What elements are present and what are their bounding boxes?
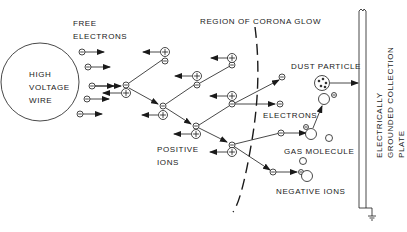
corona-region-label: REGION OF CORONA GLOW [200,15,321,28]
dust-speck [325,82,327,84]
wire-label: HIGH VOLTAGE WIRE [29,68,70,107]
electron-path-arrow [235,147,270,170]
dust-speck [320,85,322,87]
electrons-label: ELECTRONS [263,109,317,122]
free-electrons-label-line1: FREE [73,17,127,30]
dust-speck [324,86,326,88]
collection-plate-label-line3: PLATE [396,47,407,158]
path-line [199,106,229,125]
free-electrons-label: FREE ELECTRONS [73,17,127,43]
positive-ions-label-line1: POSITIVE [157,143,199,156]
path-line [166,85,194,104]
collection-plate-outline [359,11,366,208]
gas-molecule-icon [300,158,307,165]
electron-path-arrow [129,88,158,104]
negative-ions-label: NEGATIVE IONS [276,185,345,198]
gas-molecule-label: GAS MOLECULE [284,145,354,158]
collection-plate-label-line2: GROUNDED COLLECTION [385,47,396,158]
path-line [200,66,230,83]
gas-molecule-icon [306,129,317,140]
path-line [235,133,280,144]
electron-path-arrow [199,128,227,142]
corona-boundary [233,27,258,212]
electron-path-arrow [166,108,191,124]
negative-ion-molecule-icon [302,171,313,182]
wire-label-line2: VOLTAGE [29,81,70,94]
charged-molecule-icon [319,94,330,105]
positive-ions-label-line2: IONS [157,156,199,169]
collection-plate-label: ELECTRICALLY GROUNDED COLLECTION PLATE [374,47,407,158]
dust-speck [322,78,324,80]
dust-speck [318,80,320,82]
path-line [129,60,162,83]
positive-ions-label: POSITIVE IONS [157,143,199,169]
collection-plate-top-edge [359,9,366,11]
free-electrons-label-line2: ELECTRONS [73,30,127,43]
wire-label-line1: HIGH [29,68,70,81]
wire-label-line3: WIRE [29,94,70,107]
gas-molecule-icon [326,135,333,142]
dust-particle-label: DUST PARTICLE [291,60,361,73]
collection-plate-label-line1: ELECTRICALLY [374,47,385,158]
